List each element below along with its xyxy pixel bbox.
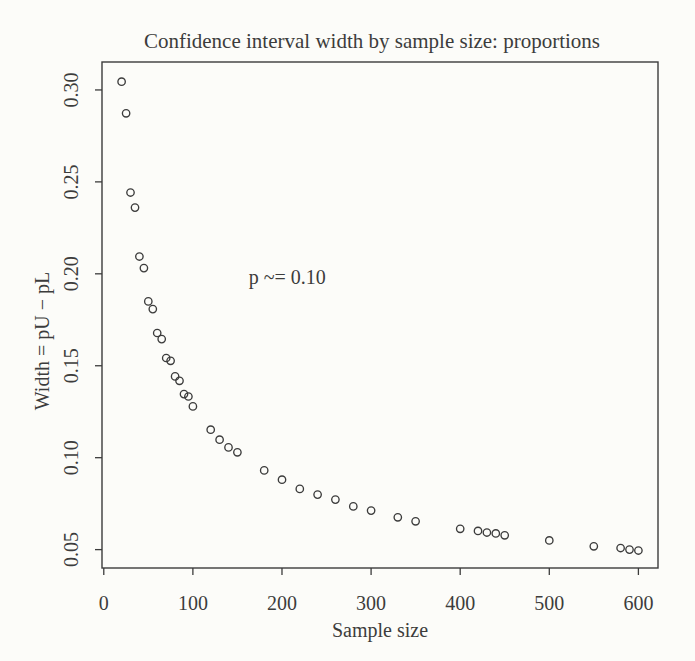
data-point bbox=[136, 253, 143, 260]
data-point bbox=[412, 518, 419, 525]
x-tick-label: 200 bbox=[267, 592, 297, 614]
data-point bbox=[590, 543, 597, 550]
x-tick-label: 0 bbox=[99, 592, 109, 614]
data-point bbox=[261, 467, 268, 474]
data-point bbox=[225, 444, 232, 451]
x-tick-label: 500 bbox=[534, 592, 564, 614]
data-point bbox=[171, 373, 178, 380]
data-point bbox=[332, 496, 339, 503]
x-axis-label: Sample size bbox=[332, 619, 428, 642]
data-point bbox=[180, 390, 187, 397]
figure-page: Confidence interval width by sample size… bbox=[0, 0, 695, 661]
data-point bbox=[367, 507, 374, 514]
annotation-p-value: p ~= 0.10 bbox=[249, 266, 326, 289]
y-tick-label: 0.30 bbox=[60, 72, 82, 107]
data-point bbox=[278, 476, 285, 483]
data-point bbox=[546, 537, 553, 544]
y-tick-label: 0.20 bbox=[60, 256, 82, 291]
data-point bbox=[145, 298, 152, 305]
data-point bbox=[118, 78, 125, 85]
data-point bbox=[158, 335, 165, 342]
data-point bbox=[207, 426, 214, 433]
data-point bbox=[185, 393, 192, 400]
y-axis-label: Width = pU − pL bbox=[31, 272, 54, 410]
data-point bbox=[189, 403, 196, 410]
data-point bbox=[216, 436, 223, 443]
data-point bbox=[394, 514, 401, 521]
data-point bbox=[457, 525, 464, 532]
y-tick-label: 0.15 bbox=[60, 348, 82, 383]
plot-frame bbox=[102, 62, 658, 568]
data-point bbox=[483, 529, 490, 536]
y-tick-label: 0.05 bbox=[60, 532, 82, 567]
x-tick-label: 100 bbox=[178, 592, 208, 614]
plot-marks: 01002003004005006000.050.100.150.200.250… bbox=[60, 62, 658, 614]
data-point bbox=[474, 527, 481, 534]
data-point bbox=[234, 449, 241, 456]
y-tick-label: 0.10 bbox=[60, 440, 82, 475]
data-point bbox=[131, 204, 138, 211]
data-point bbox=[617, 544, 624, 551]
x-tick-label: 400 bbox=[445, 592, 475, 614]
data-point bbox=[140, 264, 147, 271]
data-point bbox=[492, 530, 499, 537]
data-point bbox=[350, 503, 357, 510]
data-point bbox=[635, 547, 642, 554]
data-point bbox=[122, 110, 129, 117]
data-point bbox=[127, 189, 134, 196]
x-tick-label: 600 bbox=[623, 592, 653, 614]
data-point bbox=[296, 485, 303, 492]
scatter-plot: Confidence interval width by sample size… bbox=[0, 0, 695, 661]
chart-title: Confidence interval width by sample size… bbox=[144, 29, 600, 53]
data-point bbox=[501, 532, 508, 539]
y-tick-label: 0.25 bbox=[60, 164, 82, 199]
data-point bbox=[149, 305, 156, 312]
data-point bbox=[314, 491, 321, 498]
data-point bbox=[176, 377, 183, 384]
x-tick-label: 300 bbox=[356, 592, 386, 614]
data-point bbox=[626, 546, 633, 553]
